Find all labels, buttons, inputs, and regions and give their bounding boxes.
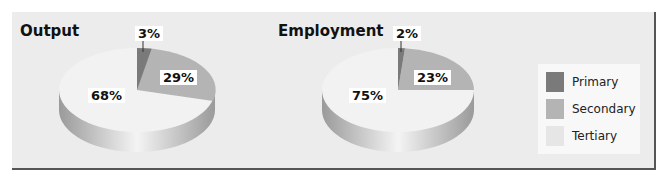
employment-primary-label: 2%: [393, 26, 421, 41]
output-tertiary-label: 68%: [88, 88, 125, 103]
legend-item-secondary: Secondary: [546, 99, 636, 119]
legend-swatch-tertiary: [546, 126, 564, 146]
legend-item-primary: Primary: [546, 72, 618, 92]
legend-swatch-primary: [546, 72, 564, 92]
output-pie: [59, 36, 216, 152]
employment-title: Employment: [278, 22, 384, 40]
legend-label: Tertiary: [572, 129, 617, 143]
output-primary-label: 3%: [135, 26, 163, 41]
output-secondary-label: 29%: [160, 70, 197, 85]
employment-pie: [322, 38, 474, 152]
output-title: Output: [20, 22, 79, 40]
legend-label: Primary: [572, 75, 618, 89]
legend: Primary Secondary Tertiary: [538, 64, 640, 154]
legend-swatch-secondary: [546, 99, 564, 119]
legend-item-tertiary: Tertiary: [546, 126, 617, 146]
employment-secondary-label: 23%: [414, 70, 451, 85]
employment-tertiary-label: 75%: [349, 88, 386, 103]
legend-label: Secondary: [572, 102, 636, 116]
